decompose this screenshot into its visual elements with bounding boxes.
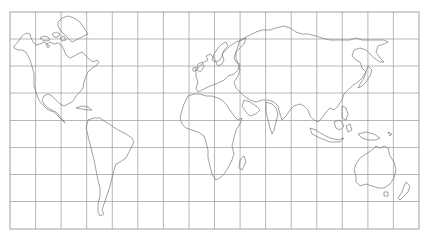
arabia-outline bbox=[242, 100, 260, 116]
world-map bbox=[0, 0, 428, 236]
tasmania-outline bbox=[384, 192, 388, 196]
indonesia-outline bbox=[310, 120, 352, 142]
caribbean-outline bbox=[76, 106, 92, 110]
australia-outline bbox=[354, 146, 396, 188]
india-outline bbox=[266, 102, 278, 134]
asia-outline bbox=[234, 26, 388, 122]
new-guinea-outline bbox=[358, 132, 392, 140]
coastlines bbox=[14, 16, 410, 216]
new-zealand-outline bbox=[398, 182, 410, 200]
philippines-outline bbox=[342, 106, 348, 120]
japan-outline bbox=[358, 66, 372, 88]
arctic-islands-outline bbox=[40, 32, 66, 48]
greenland-outline bbox=[58, 16, 88, 42]
graticule bbox=[10, 12, 419, 229]
